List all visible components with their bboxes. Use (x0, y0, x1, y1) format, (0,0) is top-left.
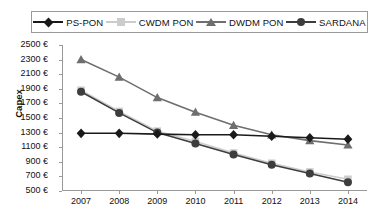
x-tick-mark (310, 191, 311, 194)
data-point (268, 161, 276, 169)
series-canvas (62, 45, 367, 191)
y-tick-mark (59, 162, 62, 163)
y-tick-label: 1900 € (4, 84, 48, 93)
x-tick-label: 2008 (99, 196, 139, 206)
data-point (115, 109, 123, 117)
data-point (267, 131, 276, 141)
data-point (344, 134, 353, 144)
legend-label-ps-pon: PS-PON (66, 17, 103, 28)
data-point (77, 88, 85, 96)
data-point (115, 73, 124, 81)
y-tick-label: 2100 € (4, 69, 48, 78)
data-point (344, 178, 352, 186)
x-tick-label: 2009 (137, 196, 177, 206)
y-tick-mark (59, 89, 62, 90)
x-tick-label: 2011 (214, 196, 254, 206)
y-tick-mark (59, 191, 62, 192)
legend-label-cwdm-pon: CWDM PON (139, 17, 194, 28)
x-tick-mark (195, 191, 196, 194)
y-axis-ticks: 2500 €2300 €2100 €1900 €1700 €1500 €1300… (0, 0, 48, 216)
data-point (229, 130, 238, 140)
y-tick-label: 2500 € (4, 40, 48, 49)
legend-label-dwdm-pon: DWDM PON (229, 17, 284, 28)
chart-figure: PS-PON CWDM PON DWDM PON SARDANA Capex (0, 0, 387, 216)
x-tick-mark (234, 191, 235, 194)
data-point (77, 129, 86, 139)
y-tick-label: 1700 € (4, 98, 48, 107)
y-tick-mark (59, 176, 62, 177)
y-tick-mark (59, 74, 62, 75)
chart-legend: PS-PON CWDM PON DWDM PON SARDANA (31, 11, 368, 33)
x-tick-mark (348, 191, 349, 194)
y-tick-label: 1300 € (4, 128, 48, 137)
y-tick-mark (59, 103, 62, 104)
y-tick-mark (59, 60, 62, 61)
data-point (76, 55, 85, 63)
y-tick-label: 700 € (4, 171, 48, 180)
data-point (115, 129, 124, 139)
plot-area (62, 45, 367, 191)
data-point (306, 169, 314, 177)
y-tick-label: 1100 € (4, 142, 48, 151)
y-tick-mark (59, 118, 62, 119)
y-tick-label: 900 € (4, 157, 48, 166)
x-tick-label: 2014 (328, 196, 368, 206)
y-tick-label: 1500 € (4, 113, 48, 122)
data-point (230, 151, 238, 159)
x-tick-label: 2012 (252, 196, 292, 206)
x-tick-mark (157, 191, 158, 194)
circle-marker-icon (286, 21, 316, 23)
y-tick-mark (59, 45, 62, 46)
legend-item-cwdm-pon: CWDM PON (106, 12, 194, 32)
triangle-marker-icon (196, 21, 226, 23)
x-tick-label: 2010 (175, 196, 215, 206)
y-tick-label: 2300 € (4, 55, 48, 64)
data-point (191, 140, 199, 148)
x-tick-mark (119, 191, 120, 194)
x-tick-label: 2007 (61, 196, 101, 206)
y-tick-mark (59, 147, 62, 148)
square-marker-icon (106, 21, 136, 23)
legend-item-sardana: SARDANA (286, 12, 366, 32)
x-tick-mark (81, 191, 82, 194)
y-tick-mark (59, 133, 62, 134)
data-point (153, 93, 162, 101)
legend-item-dwdm-pon: DWDM PON (196, 12, 284, 32)
x-tick-label: 2013 (290, 196, 330, 206)
x-tick-mark (272, 191, 273, 194)
legend-label-sardana: SARDANA (319, 17, 366, 28)
y-tick-label: 500 € (4, 186, 48, 195)
